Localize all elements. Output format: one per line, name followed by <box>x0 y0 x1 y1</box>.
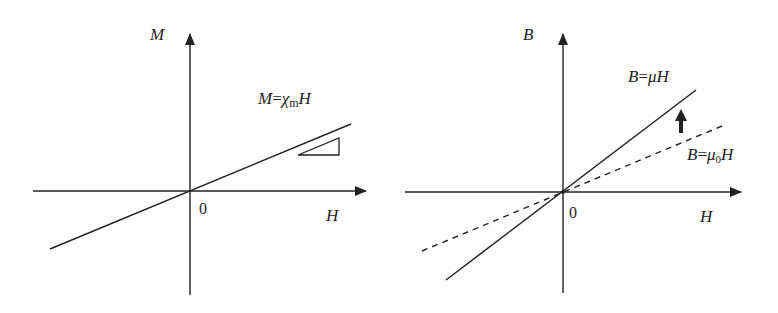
b-mu-h-equation: B=μH <box>628 67 671 86</box>
magnetization-equation: M=χmH <box>257 89 313 110</box>
left-origin-label: 0 <box>199 200 207 217</box>
b-mu0-h-dashed-line <box>422 126 722 251</box>
slope-triangle <box>298 138 339 155</box>
b-mu-h-line <box>446 90 696 280</box>
left-x-axis-label: H <box>325 206 340 225</box>
right-x-axis-label: H <box>699 207 714 226</box>
left-y-axis-label: M <box>149 25 165 44</box>
magnetization-line <box>50 124 351 249</box>
right-origin-label: 0 <box>569 204 577 221</box>
right-y-axis-label: B <box>523 25 534 44</box>
origin-dot <box>561 190 565 194</box>
left-panel: M 0 H M=χmH <box>33 25 366 295</box>
b-mu0-h-equation: B=μ0H <box>687 145 735 165</box>
arrow-up-icon <box>675 109 687 133</box>
diagram-canvas: M 0 H M=χmH B 0 H B=μH B=μ0H <box>0 0 778 313</box>
right-panel: B 0 H B=μH B=μ0H <box>405 25 741 293</box>
